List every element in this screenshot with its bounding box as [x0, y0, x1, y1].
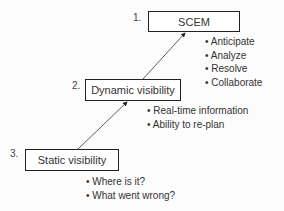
level-3-number: 3. — [10, 148, 18, 159]
level-2-number: 2. — [72, 80, 80, 91]
bullet: Analyze — [205, 49, 262, 63]
dynamic-bullets: Real-time information Ability to re-plan — [147, 104, 248, 131]
level-1-number: 1. — [133, 12, 141, 23]
dynamic-visibility-box: Dynamic visibility — [85, 79, 181, 101]
static-visibility-box: Static visibility — [25, 149, 119, 171]
bullet: What went wrong? — [86, 189, 175, 203]
bullet: Ability to re-plan — [147, 118, 248, 132]
bullet: Resolve — [205, 62, 262, 76]
bullet: Where is it? — [86, 175, 175, 189]
bullet: Collaborate — [205, 76, 262, 90]
arrow-static-to-dynamic — [78, 102, 127, 149]
arrow-dynamic-to-scem — [143, 33, 185, 79]
static-bullets: Where is it? What went wrong? — [86, 175, 175, 202]
bullet: Anticipate — [205, 35, 262, 49]
bullet: Real-time information — [147, 104, 248, 118]
scem-bullets: Anticipate Analyze Resolve Collaborate — [205, 35, 262, 89]
scem-box: SCEM — [148, 11, 240, 32]
